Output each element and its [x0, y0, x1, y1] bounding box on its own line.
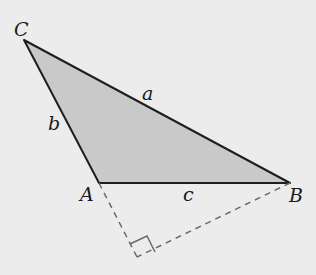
side-label-b: b [48, 112, 60, 134]
vertex-label-a: A [78, 183, 94, 205]
vertex-label-b: B [288, 184, 303, 206]
triangle-abc [24, 40, 290, 183]
dashed-altitude-b [137, 183, 290, 257]
side-label-c: c [183, 183, 194, 205]
right-angle-marker [130, 236, 155, 252]
triangle-diagram: C A B a b c [0, 0, 316, 275]
triangle-figure: C A B a b c [0, 0, 316, 275]
dashed-extension-a [99, 183, 137, 257]
side-label-a: a [142, 82, 153, 104]
vertex-label-c: C [14, 18, 29, 40]
